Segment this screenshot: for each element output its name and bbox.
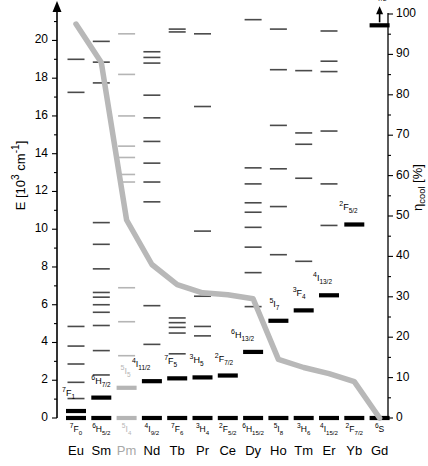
energy-level-Ho [268, 416, 288, 420]
energy-level-Eu [68, 92, 85, 94]
energy-level-Nd [143, 62, 160, 64]
energy-level-Ho [270, 69, 287, 71]
energy-level-Tm [295, 143, 312, 145]
energy-level-Sm [91, 396, 111, 400]
level-label-Nd: 4I11/2 [132, 359, 151, 369]
energy-level-Er [321, 130, 338, 132]
energy-level-Ho [268, 319, 288, 323]
energy-level-Nd [143, 141, 160, 143]
energy-level-Pr [194, 33, 211, 35]
energy-level-Eu [68, 59, 85, 61]
level-label-Tb: 7F5 [164, 356, 177, 366]
ground-state-label-Gd: 6S [358, 424, 402, 434]
energy-level-Nd [143, 117, 160, 119]
level-label-Sm: 6H7/2 [91, 376, 110, 386]
energy-level-Er [321, 30, 338, 32]
energy-level-Pr [194, 326, 211, 328]
energy-level-Pm [117, 386, 137, 390]
energy-level-Tm [294, 416, 314, 420]
energy-level-Yb [344, 416, 364, 420]
energy-level-Tm [295, 132, 312, 134]
right-tick-label: 90 [396, 46, 409, 60]
energy-level-Pm [118, 287, 135, 289]
left-tick-label: 8 [18, 259, 48, 273]
energy-level-Pm [118, 115, 135, 117]
energy-level-Eu [68, 345, 85, 347]
energy-level-Dy [243, 416, 263, 420]
energy-level-chart: 0246810121416182001020304050607080901007… [0, 0, 428, 466]
level-label-Dy: 6H13/2 [231, 330, 254, 340]
level-label-Er: 4I13/2 [313, 273, 332, 283]
energy-level-Sm [93, 350, 110, 352]
energy-level-Dy [245, 227, 262, 229]
level-label-Ce: 2F7/2 [215, 354, 233, 364]
energy-level-Dy [245, 272, 262, 274]
right-tick-label: 80 [396, 87, 409, 101]
energy-level-Eu [66, 416, 86, 420]
energy-level-Tm [295, 261, 312, 263]
energy-level-Ce [218, 373, 238, 377]
left-tick-label: 6 [18, 297, 48, 311]
energy-level-Pm [118, 74, 135, 76]
energy-level-Er [319, 293, 339, 297]
y2-axis-label-text: ηcool [%] [410, 164, 425, 211]
left-tick-label: 20 [18, 32, 48, 46]
left-tick-label: 4 [18, 334, 48, 348]
energy-level-Sm [93, 325, 110, 327]
y2-axis-label: ηcool [%] [410, 123, 425, 253]
energy-level-Sm [91, 416, 111, 420]
energy-level-Nd [143, 201, 160, 203]
level-label-Eu: 7F1 [62, 388, 75, 398]
energy-level-Sm [93, 222, 110, 224]
right-tick-label: 50 [396, 208, 409, 222]
energy-level-Ho [270, 125, 287, 127]
energy-level-Sm [93, 304, 110, 306]
energy-level-Dy [245, 167, 262, 169]
energy-level-Gd [370, 23, 390, 27]
energy-level-Tb [169, 353, 186, 355]
level-label-Ho: 5I7 [269, 299, 279, 309]
right-tick-label: 70 [396, 127, 409, 141]
energy-level-Er [319, 416, 339, 420]
energy-level-Sm [93, 296, 110, 298]
energy-level-Sm [93, 41, 110, 43]
energy-level-Tb [169, 332, 186, 334]
right-tick-label: 10 [396, 370, 409, 384]
left-tick-label: 0 [18, 410, 48, 424]
energy-level-Pm [117, 416, 137, 420]
energy-level-Pm [118, 145, 135, 147]
energy-level-Tm [294, 308, 314, 312]
energy-level-Nd [142, 379, 162, 383]
level-label-Pr: 3H5 [190, 355, 204, 365]
energy-level-Pr [194, 230, 211, 232]
energy-level-Pm [118, 321, 135, 323]
energy-level-Nd [143, 57, 160, 59]
energy-level-Nd [143, 305, 160, 307]
right-tick-label: 30 [396, 289, 409, 303]
energy-level-Ho [270, 206, 287, 208]
energy-level-Ce [218, 416, 238, 420]
y-axis-label: E [103 cm-1] [13, 111, 28, 241]
right-tick-label: 40 [396, 248, 409, 262]
energy-level-Yb [344, 222, 364, 226]
energy-level-Nd [143, 51, 160, 53]
energy-level-Nd [142, 416, 162, 420]
energy-level-Eu [68, 363, 85, 365]
energy-level-Nd [143, 94, 160, 96]
energy-level-Ho [270, 28, 287, 30]
energy-level-Er [321, 183, 338, 185]
energy-level-Nd [143, 344, 160, 346]
energy-level-Tb [167, 416, 187, 420]
energy-level-Tb [169, 28, 186, 30]
level-label-Pm: 5I5 [121, 366, 131, 376]
energy-level-Sm [93, 268, 110, 270]
left-tick-label: 18 [18, 70, 48, 84]
energy-level-Dy [245, 246, 262, 248]
energy-level-Tb [169, 317, 186, 319]
energy-level-Pm [118, 157, 135, 159]
energy-level-Tb [167, 376, 187, 380]
energy-level-Dy [245, 183, 262, 185]
right-tick-label: 20 [396, 329, 409, 343]
energy-level-Ho [270, 168, 287, 170]
right-tick-label: 60 [396, 168, 409, 182]
